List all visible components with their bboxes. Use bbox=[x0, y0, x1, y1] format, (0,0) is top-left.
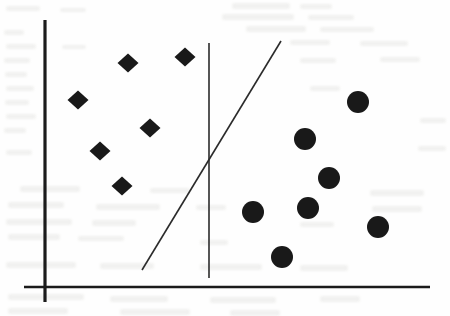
data-point-circle bbox=[347, 91, 369, 113]
decision-boundaries-group bbox=[142, 41, 281, 278]
data-point-circle bbox=[271, 246, 293, 268]
axes-group bbox=[24, 20, 430, 302]
data-markers-group bbox=[68, 48, 390, 269]
plot-canvas bbox=[0, 0, 450, 316]
decision-boundary-diagonal bbox=[142, 41, 281, 270]
data-point-circle bbox=[242, 201, 264, 223]
data-point-diamond bbox=[68, 91, 89, 110]
data-point-circle bbox=[318, 167, 340, 189]
data-point-diamond bbox=[90, 142, 111, 161]
data-point-circle bbox=[294, 128, 316, 150]
data-point-circle bbox=[367, 216, 389, 238]
data-point-diamond bbox=[175, 48, 196, 67]
scatter-plot-figure bbox=[0, 0, 450, 316]
data-point-diamond bbox=[118, 54, 139, 73]
data-point-diamond bbox=[140, 119, 161, 138]
data-point-circle bbox=[297, 197, 319, 219]
data-point-diamond bbox=[112, 177, 133, 196]
